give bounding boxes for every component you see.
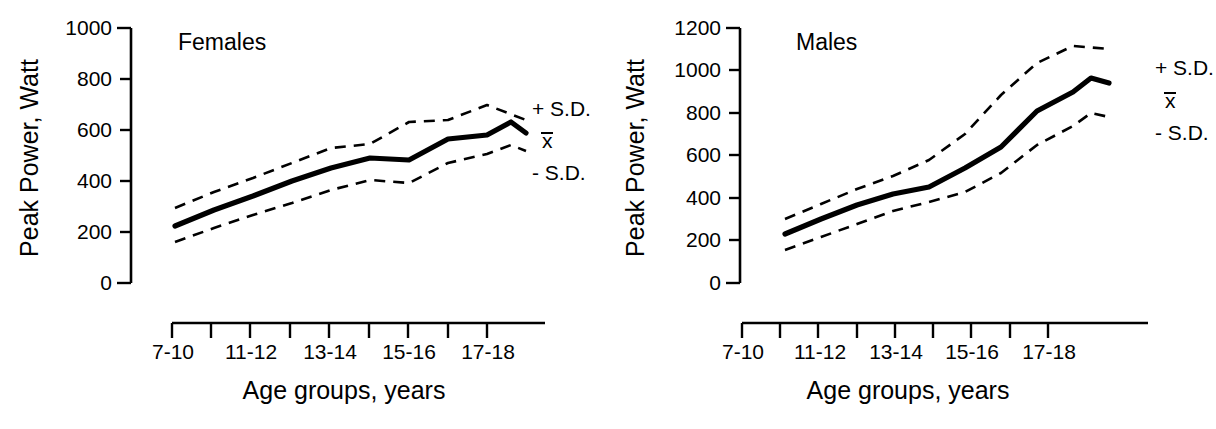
males-ytick-200: 200 [686,228,721,251]
males-curve-minus-sd [785,113,1109,250]
males-xtick-15-16: 15-16 [945,340,999,363]
males-ytick-600: 600 [686,143,721,166]
females-xtick-17-18: 17-18 [461,340,515,363]
panel-females: 1000 800 600 400 200 0 Peak Power, Watt … [0,0,608,429]
males-xtick-17-18: 17-18 [1022,340,1076,363]
males-xtick-7-10: 7-10 [722,340,764,363]
females-y-axis-title: Peak Power, Watt [15,59,43,257]
females-legend-plus-sd: + S.D. [532,97,591,120]
figure-peak-power-by-age: 1000 800 600 400 200 0 Peak Power, Watt … [0,0,1216,429]
males-curve-plus-sd [785,46,1109,219]
females-legend-mean: x [541,129,553,152]
females-chart-svg: 1000 800 600 400 200 0 Peak Power, Watt … [0,0,608,429]
males-legend-plus-sd: + S.D. [1155,56,1214,79]
males-legend-mean-label: x [1165,89,1176,112]
males-chart-svg: 1200 1000 800 600 400 200 0 Peak Power, … [608,0,1216,429]
panel-males: 1200 1000 800 600 400 200 0 Peak Power, … [608,0,1216,429]
females-xtick-11-12: 11-12 [225,340,277,363]
males-ytick-1000: 1000 [674,58,721,81]
females-xtick-15-16: 15-16 [382,340,436,363]
females-legend-mean-label: x [542,129,553,152]
males-xtick-11-12: 11-12 [794,340,846,363]
females-x-axis-title: Age groups, years [243,376,446,404]
females-ytick-0: 0 [100,271,112,294]
males-xtick-13-14: 13-14 [869,340,923,363]
females-x-ticks [172,323,487,338]
males-curve-mean [785,78,1109,234]
males-panel-title: Males [796,29,857,55]
females-panel-title: Females [178,29,266,55]
males-ytick-0: 0 [709,271,721,294]
males-ytick-1200: 1200 [674,16,721,39]
females-ytick-400: 400 [77,169,112,192]
males-y-ticks [726,28,740,283]
females-ytick-600: 600 [77,118,112,141]
males-ytick-400: 400 [686,186,721,209]
females-ytick-800: 800 [77,67,112,90]
males-ytick-800: 800 [686,101,721,124]
males-legend-minus-sd: - S.D. [1155,121,1209,144]
males-legend-mean: x [1164,89,1176,112]
females-curve-minus-sd [175,145,526,242]
females-xtick-7-10: 7-10 [152,340,194,363]
males-x-axis-title: Age groups, years [807,376,1010,404]
females-ytick-1000: 1000 [65,16,112,39]
females-ytick-200: 200 [77,220,112,243]
females-xtick-13-14: 13-14 [303,340,357,363]
males-y-axis-title: Peak Power, Watt [621,59,649,257]
females-curve-mean [175,122,526,226]
males-x-ticks [742,323,1048,338]
females-legend-minus-sd: - S.D. [532,161,586,184]
females-y-ticks [117,28,131,283]
